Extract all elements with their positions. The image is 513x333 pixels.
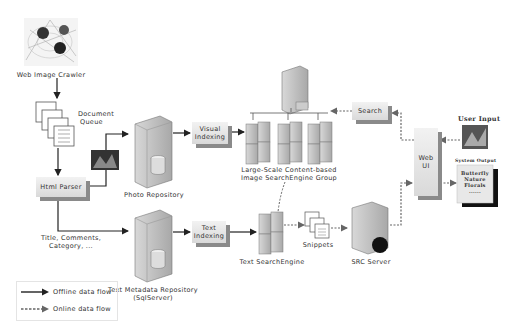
edge-parser-photo (88, 170, 106, 186)
cbir-label-2: Image SearchEngine Group (241, 174, 337, 182)
visual-indexing-node: Visual Indexing (192, 122, 228, 144)
edge-webui-search (392, 113, 414, 140)
legend: Offline data flow Online data flow (16, 281, 118, 321)
text-metadata-server-icon (135, 210, 172, 282)
text-meta-label-2: (SqlServer) (133, 294, 173, 302)
edge-parser-textmeta (58, 200, 128, 231)
web-ui-label-2: UI (422, 162, 429, 170)
legend-online: Online data flow (21, 304, 111, 314)
text-indexing-label-1: Text (202, 224, 216, 232)
snippets-label: Snippets (303, 241, 334, 249)
solid-arrow-icon (21, 288, 49, 296)
search-label: Search (358, 107, 382, 115)
photo-repo-label: Photo Repository (124, 191, 184, 199)
cbir-cluster-2-icon (278, 122, 302, 164)
cbir-label-1: Large-Scale Content-based (241, 166, 337, 174)
meta-fields-label-2: Category, ... (49, 242, 93, 250)
cbir-master-server-icon (282, 66, 308, 114)
visual-indexing-label-2: Indexing (195, 133, 225, 141)
user-input-image (462, 125, 488, 149)
edge-photo-repo (106, 134, 128, 150)
edge-cbir-textsearch (278, 182, 285, 212)
output-item-4: ...... (469, 188, 481, 194)
system-output-label: System Output (455, 157, 496, 165)
legend-online-label: Online data flow (53, 305, 111, 313)
document-queue-icon (36, 102, 74, 146)
edge-src-webui (390, 183, 412, 225)
text-meta-label-1: Text Metadata Repository (108, 286, 198, 294)
user-input-label: User Input (458, 115, 500, 123)
cbir-cluster-1-icon (246, 122, 270, 164)
search-node: Search (352, 102, 388, 120)
web-ui-node: Web UI (414, 128, 438, 196)
photo-thumbnail (91, 150, 119, 170)
legend-offline: Offline data flow (21, 287, 112, 297)
legend-offline-label: Offline data flow (53, 288, 112, 296)
meta-fields-label-1: Title, Comments, (41, 234, 101, 242)
text-indexing-label-2: Indexing (194, 232, 224, 240)
text-searchengine-icon (259, 212, 283, 254)
crawler-label: Web Image Crawler (17, 71, 86, 79)
text-indexing-node: Text Indexing (192, 221, 226, 243)
doc-queue-label-2: Queue (80, 118, 103, 126)
cbir-cluster-3-icon (308, 122, 332, 164)
doc-queue-label-1: Document (78, 110, 114, 118)
photo-repository-server-icon (135, 116, 172, 188)
visual-indexing-label-1: Visual (199, 125, 220, 133)
src-server-icon (352, 202, 388, 254)
snippets-icon (305, 212, 329, 238)
dashed-arrow-icon (21, 305, 49, 313)
web-ui-label-1: Web (418, 154, 433, 162)
html-parser-label: Html Parser (40, 183, 81, 191)
src-server-label: SRC Server (351, 258, 390, 266)
text-searchengine-label: Text SearchEngine (240, 258, 305, 266)
html-parser-node: Html Parser (36, 177, 86, 197)
crawler-icon (24, 18, 78, 66)
